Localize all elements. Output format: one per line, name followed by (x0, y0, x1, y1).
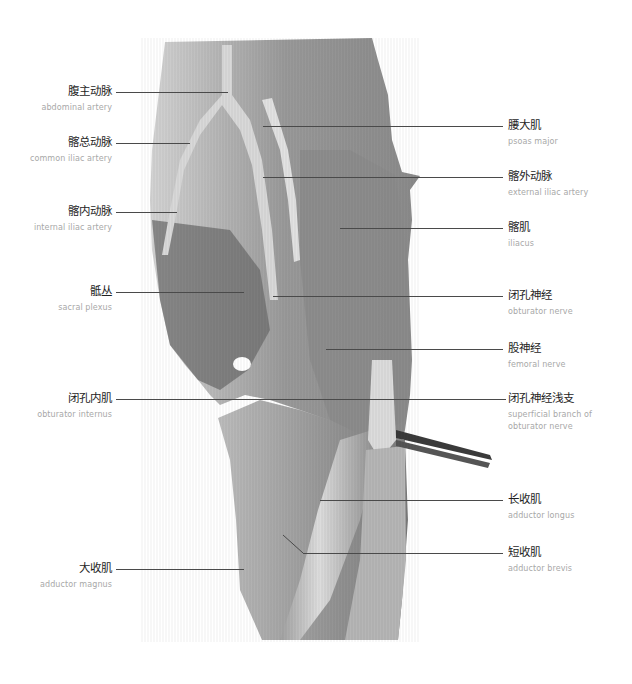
label-adductor-brevis: 短收肌 adductor brevis (508, 547, 572, 574)
label-en: sacral plexus (58, 302, 112, 313)
label-femoral-nerve: 股神经 femoral nerve (508, 343, 566, 370)
anatomy-figure: 腹主动脉 abdominal artery 髂总动脉 common iliac … (0, 0, 632, 684)
label-en: femoral nerve (508, 359, 566, 370)
label-cn: 闭孔内肌 (37, 393, 112, 405)
label-en: common iliac artery (30, 153, 112, 164)
label-psoas-major: 腰大肌 psoas major (508, 120, 558, 147)
label-en: iliacus (508, 238, 534, 249)
label-internal-iliac-artery: 髂内动脉 internal iliac artery (34, 206, 112, 233)
label-superficial-branch-obturator-nerve: 闭孔神经浅支 superficial branch of obturator n… (508, 393, 592, 432)
label-cn: 腰大肌 (508, 120, 558, 132)
label-obturator-nerve: 闭孔神经 obturator nerve (508, 290, 573, 317)
label-cn: 股神经 (508, 343, 566, 355)
label-cn: 髂总动脉 (30, 137, 112, 149)
label-en: adductor magnus (40, 579, 112, 590)
label-en: internal iliac artery (34, 222, 112, 233)
label-en: external iliac artery (508, 187, 588, 198)
label-en: adductor brevis (508, 563, 572, 574)
label-cn: 骶丛 (58, 286, 112, 298)
label-adductor-magnus: 大收肌 adductor magnus (40, 563, 112, 590)
label-cn: 髂内动脉 (34, 206, 112, 218)
label-en-line-2: obturator nerve (508, 421, 592, 432)
label-adductor-longus: 长收肌 adductor longus (508, 494, 574, 521)
label-en: abdominal artery (41, 102, 112, 113)
label-cn: 髂肌 (508, 222, 534, 234)
label-common-iliac-artery: 髂总动脉 common iliac artery (30, 137, 112, 164)
label-en-line-1: superficial branch of (508, 409, 592, 420)
label-en: psoas major (508, 136, 558, 147)
label-cn: 闭孔神经 (508, 290, 573, 302)
label-obturator-internus: 闭孔内肌 obturator internus (37, 393, 112, 420)
label-cn: 腹主动脉 (41, 86, 112, 98)
label-cn: 长收肌 (508, 494, 574, 506)
label-external-iliac-artery: 髂外动脉 external iliac artery (508, 171, 588, 198)
label-sacral-plexus: 骶丛 sacral plexus (58, 286, 112, 313)
label-cn: 短收肌 (508, 547, 572, 559)
label-cn: 髂外动脉 (508, 171, 588, 183)
label-en: adductor longus (508, 510, 574, 521)
label-cn: 大收肌 (40, 563, 112, 575)
label-en: obturator nerve (508, 306, 573, 317)
label-iliacus: 髂肌 iliacus (508, 222, 534, 249)
label-en: obturator internus (37, 409, 112, 420)
label-abdominal-artery: 腹主动脉 abdominal artery (41, 86, 112, 113)
label-cn: 闭孔神经浅支 (508, 393, 592, 405)
